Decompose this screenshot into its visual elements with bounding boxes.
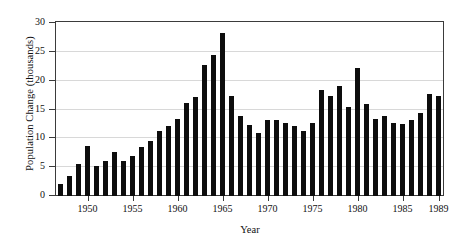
bar	[265, 120, 271, 196]
bar	[58, 184, 64, 196]
x-axis-tick	[178, 196, 179, 201]
y-axis-tick-label: 5	[0, 161, 45, 171]
bar	[256, 133, 262, 196]
bar	[409, 120, 415, 196]
bar	[103, 161, 109, 196]
x-axis-tick-label: 1989	[419, 203, 449, 215]
bar	[355, 68, 361, 196]
bar-chart-figure: Population Change (thousands) 0510152025…	[0, 0, 449, 246]
bar	[364, 104, 370, 196]
x-axis-tick	[268, 196, 269, 201]
y-axis-tick-label: 25	[0, 46, 45, 56]
x-axis-tick	[133, 196, 134, 201]
bar	[220, 33, 226, 196]
x-axis-tick-label: 1950	[68, 203, 108, 215]
y-axis-tick-label: 20	[0, 75, 45, 85]
bar	[211, 55, 217, 196]
bar	[139, 147, 145, 196]
x-axis-tick-label: 1980	[338, 203, 378, 215]
y-axis-tick	[49, 51, 55, 52]
bar	[346, 107, 352, 196]
y-axis-tick	[49, 109, 55, 110]
y-axis-tick-label: 10	[0, 132, 45, 142]
y-axis-tick	[49, 22, 55, 23]
y-axis-tick-label: 30	[0, 17, 45, 27]
bar	[193, 97, 199, 196]
y-axis-tick	[49, 80, 55, 81]
bar	[301, 131, 307, 196]
bar	[121, 161, 127, 196]
x-axis-tick-label: 1965	[203, 203, 243, 215]
bar	[166, 126, 172, 196]
bar	[76, 164, 82, 196]
bar	[157, 131, 163, 196]
x-axis-tick-label: 1985	[383, 203, 423, 215]
bar	[418, 113, 424, 196]
bar	[112, 152, 118, 196]
bar	[391, 123, 397, 196]
x-axis-tick	[439, 196, 440, 201]
bar	[328, 96, 334, 196]
bar	[274, 120, 280, 196]
bar	[310, 123, 316, 196]
bar	[247, 125, 253, 197]
bar	[292, 126, 298, 196]
bar	[238, 116, 244, 196]
y-axis-tick	[49, 195, 55, 196]
bar	[400, 124, 406, 196]
y-axis-tick	[49, 137, 55, 138]
bar	[94, 166, 100, 196]
bar	[184, 103, 190, 196]
bar	[337, 86, 343, 196]
bar	[130, 156, 136, 196]
bar	[319, 90, 325, 196]
bar	[85, 146, 91, 196]
bar	[436, 96, 442, 196]
x-axis-tick	[223, 196, 224, 201]
y-axis-tick-label: 0	[0, 190, 45, 200]
x-axis-tick-label: 1975	[293, 203, 333, 215]
bar	[382, 116, 388, 196]
x-axis-tick	[313, 196, 314, 201]
bar	[427, 94, 433, 196]
x-axis-tick-label: 1955	[113, 203, 153, 215]
x-axis-tick-label: 1960	[158, 203, 198, 215]
bar	[148, 141, 154, 196]
bar	[67, 176, 73, 196]
y-axis-tick-label: 15	[0, 104, 45, 114]
bar	[283, 123, 289, 196]
bar	[202, 65, 208, 196]
x-axis-tick	[358, 196, 359, 201]
bar	[373, 119, 379, 196]
x-axis-tick	[403, 196, 404, 201]
x-axis-tick	[88, 196, 89, 201]
bar	[175, 119, 181, 196]
bar	[229, 96, 235, 196]
y-axis-tick	[49, 166, 55, 167]
x-axis-title: Year	[55, 224, 445, 235]
bars-layer	[56, 22, 443, 196]
x-axis-tick-label: 1970	[248, 203, 288, 215]
